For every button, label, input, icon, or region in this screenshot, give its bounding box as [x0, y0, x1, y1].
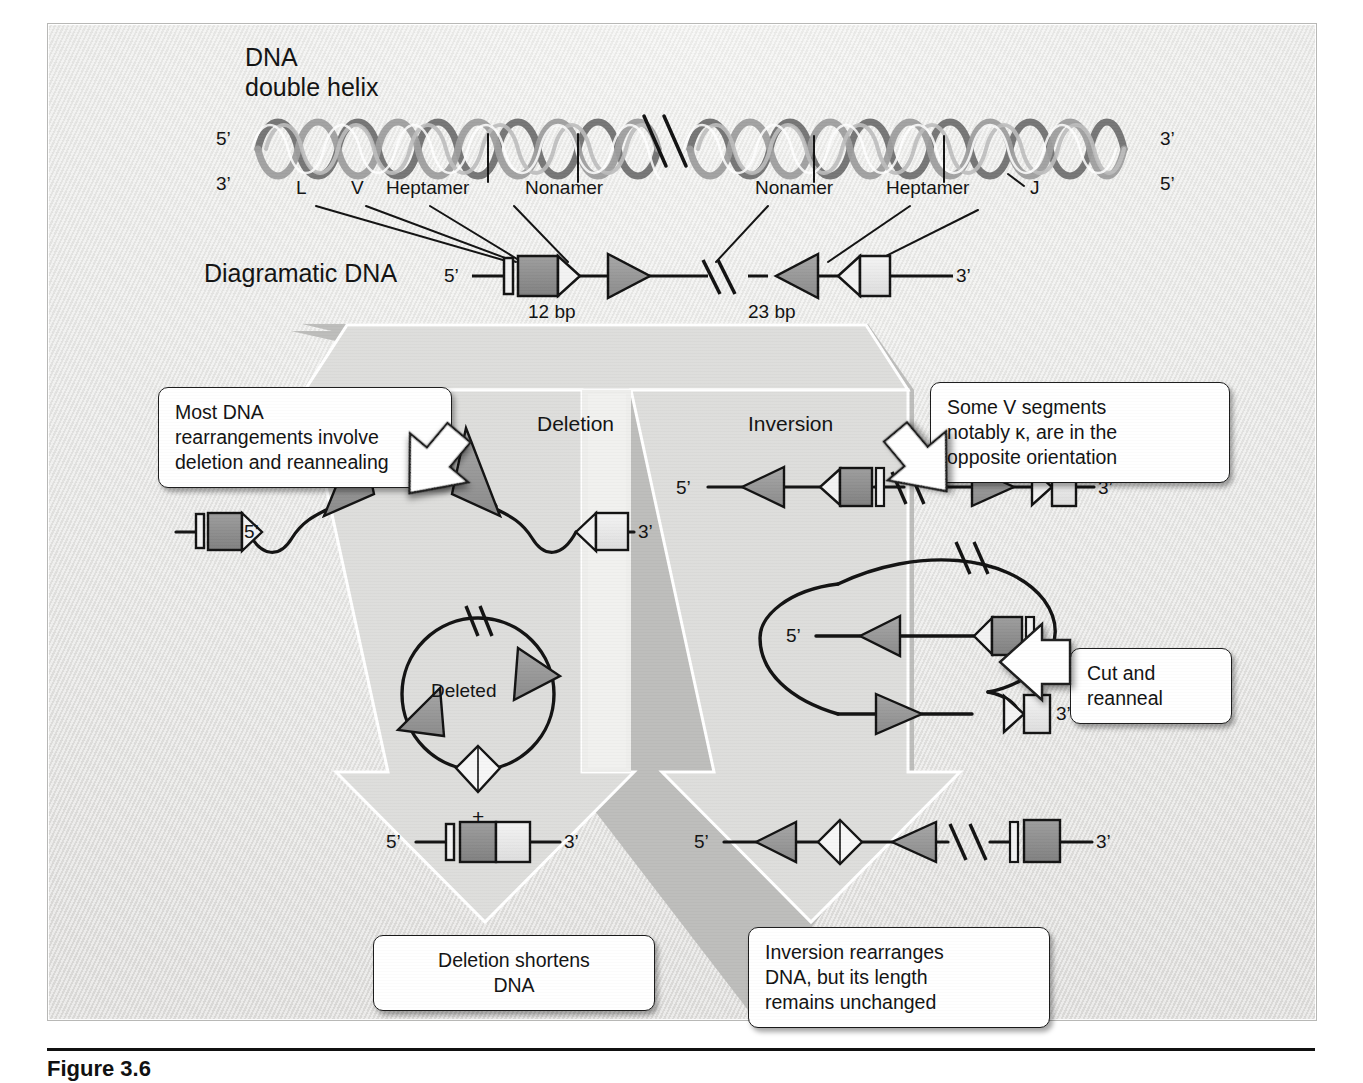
callout-inversion-result: Inversion rearranges DNA, but its length… — [748, 927, 1050, 1028]
figure-caption: Figure 3.6 — [47, 1056, 151, 1082]
caption-rule — [47, 1048, 1315, 1051]
figure-panel: DNA double helix 5’ 3’ 3’ 5’ L V Heptame… — [47, 23, 1317, 1021]
callout-deletion-result-text: Deletion shortens DNA — [438, 949, 590, 996]
callout-deletion-result: Deletion shortens DNA — [373, 935, 655, 1011]
callout-cut-reanneal-arrow — [48, 24, 1316, 1020]
callout-inversion-result-text: Inversion rearranges DNA, but its length… — [765, 941, 944, 1013]
